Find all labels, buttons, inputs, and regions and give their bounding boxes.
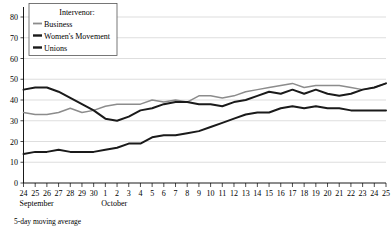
x-tick-label: 11 [218,189,226,198]
chart-figure: 01020304050607080 2425262728293012345678… [0,0,392,232]
x-tick-label: 25 [382,189,390,198]
month-label: September [20,199,55,208]
x-tick-marks [24,183,387,187]
x-tick-label: 2 [115,189,119,198]
line-chart: 01020304050607080 2425262728293012345678… [0,0,392,232]
x-tick-label: 15 [265,189,273,198]
x-tick-label: 20 [324,189,332,198]
x-tick-label: 4 [138,189,142,198]
x-tick-label: 12 [230,189,238,198]
x-tick-label: 1 [103,189,107,198]
x-tick-label: 25 [31,189,39,198]
x-tick-label: 19 [312,189,320,198]
x-axis-tick-labels: 2425262728293012345678910111213141516171… [20,189,391,198]
footnote: 5-day moving average [14,217,82,226]
x-tick-label: 14 [253,189,261,198]
series-line-women-s-movement [24,83,387,120]
x-tick-label: 24 [370,189,378,198]
legend-label: Women's Movement [44,32,111,41]
x-tick-label: 7 [174,189,178,198]
x-tick-label: 3 [127,189,131,198]
y-tick-label: 80 [10,13,18,22]
month-label: October [101,199,127,208]
x-tick-label: 30 [90,189,98,198]
x-tick-label: 8 [185,189,189,198]
x-tick-label: 28 [66,189,74,198]
x-axis-month-labels: SeptemberOctober [20,199,128,208]
x-tick-label: 13 [242,189,250,198]
x-tick-label: 26 [43,189,51,198]
x-tick-label: 16 [277,189,285,198]
y-tick-label: 60 [10,55,18,64]
x-tick-label: 21 [335,189,343,198]
y-tick-label: 30 [10,117,18,126]
legend-label: Business [44,20,72,29]
y-tick-label: 70 [10,34,18,43]
x-tick-label: 29 [78,189,86,198]
series-line-business [24,83,387,114]
x-tick-label: 27 [55,189,63,198]
x-tick-label: 5 [150,189,154,198]
y-tick-label: 20 [10,138,18,147]
y-tick-label: 10 [10,158,18,167]
x-tick-label: 17 [288,189,296,198]
x-tick-label: 6 [162,189,166,198]
y-tick-label: 50 [10,75,18,84]
chart-legend: Intervenor:BusinessWomen's MovementUnion… [29,4,117,56]
x-tick-label: 23 [359,189,367,198]
x-tick-label: 10 [207,189,215,198]
y-tick-label: 40 [10,96,18,105]
legend-label: Unions [44,44,67,53]
series-line-unions [24,106,387,154]
x-tick-label: 24 [20,189,28,198]
legend-title: Intervenor: [59,8,95,17]
x-tick-label: 9 [197,189,201,198]
series-lines [24,83,387,154]
y-axis-tick-labels: 01020304050607080 [10,13,18,188]
x-tick-label: 18 [300,189,308,198]
x-tick-label: 22 [347,189,355,198]
y-tick-label: 0 [14,179,18,188]
